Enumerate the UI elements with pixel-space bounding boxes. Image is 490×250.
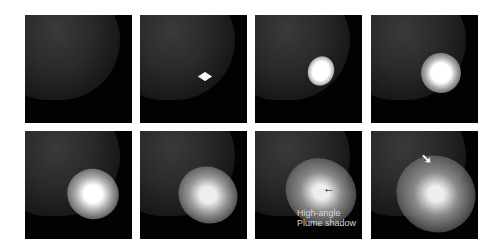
frame-3	[255, 15, 362, 123]
frame-4	[371, 15, 478, 123]
frame-6	[140, 131, 247, 239]
frame-5	[25, 131, 132, 239]
plume-arrow: ➘	[421, 151, 432, 166]
nucleus	[140, 15, 235, 100]
plume-shadow-arrow: ←	[323, 181, 335, 195]
frame-8: ➘	[371, 131, 478, 239]
frame-1	[25, 15, 132, 123]
nucleus	[255, 15, 350, 100]
plume-shadow-label-line1: High-angle	[297, 208, 341, 218]
frame-7: ← High-angle Plume shadow	[255, 131, 362, 239]
plume-shadow-label-line2: Plume shadow	[297, 218, 356, 228]
nucleus	[25, 15, 120, 100]
frame-2	[140, 15, 247, 123]
